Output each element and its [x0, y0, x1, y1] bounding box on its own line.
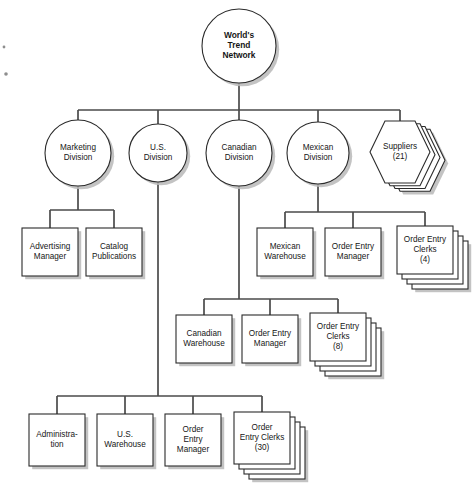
mexican-order-entry-manager-label: Order EntryManager: [332, 242, 375, 261]
node-us-order-entry-manager[interactable]: OrderEntryManager: [165, 414, 224, 469]
node-mexican-order-entry-clerks[interactable]: Order EntryClerks(4): [397, 226, 471, 292]
advertising-manager-label: AdvertisingManager: [30, 242, 71, 261]
mexican-warehouse-label: MexicanWarehouse: [264, 242, 306, 261]
chart-nodes: World'sTrendNetworkMarketingDivisionU.S.…: [22, 9, 471, 482]
canadian-division-label: CanadianDivision: [221, 143, 256, 162]
org-chart-diagram: World'sTrendNetworkMarketingDivisionU.S.…: [0, 0, 476, 497]
node-mexican-warehouse[interactable]: MexicanWarehouse: [257, 228, 316, 279]
node-suppliers[interactable]: Suppliers(21): [370, 121, 448, 194]
node-canadian-warehouse[interactable]: CanadianWarehouse: [176, 315, 235, 366]
org-chart-canvas: World'sTrendNetworkMarketingDivisionU.S.…: [0, 0, 476, 497]
node-canadian-order-entry-clerks[interactable]: Order EntryClerks(8): [310, 313, 384, 379]
node-mexican-order-entry-manager[interactable]: Order EntryManager: [325, 228, 384, 279]
node-administration[interactable]: Administra-tion: [29, 414, 88, 469]
node-us-warehouse[interactable]: U.S.Warehouse: [97, 414, 156, 469]
node-us-order-entry-clerks[interactable]: OrderEntry Clerks(30): [234, 412, 308, 482]
mexican-division-label: MexicanDivision: [303, 143, 334, 162]
canadian-warehouse-label: CanadianWarehouse: [183, 329, 225, 348]
scan-speck-0: [3, 46, 6, 49]
scan-artifacts: [3, 46, 8, 76]
scan-speck-1: [4, 72, 8, 76]
node-canadian-division[interactable]: CanadianDivision: [206, 120, 275, 189]
node-mexican-division[interactable]: MexicanDivision: [287, 122, 352, 187]
node-catalog-publications[interactable]: CatalogPublications: [86, 228, 145, 279]
node-us-division[interactable]: U.S.Division: [129, 124, 190, 185]
node-advertising-manager[interactable]: AdvertisingManager: [22, 228, 81, 279]
node-canadian-order-entry-manager[interactable]: Order EntryManager: [242, 315, 301, 366]
node-worlds-trend-network[interactable]: World'sTrendNetwork: [202, 9, 279, 86]
marketing-division-label: MarketingDivision: [60, 143, 96, 162]
canadian-order-entry-manager-label: Order EntryManager: [249, 329, 292, 348]
node-marketing-division[interactable]: MarketingDivision: [45, 120, 114, 189]
